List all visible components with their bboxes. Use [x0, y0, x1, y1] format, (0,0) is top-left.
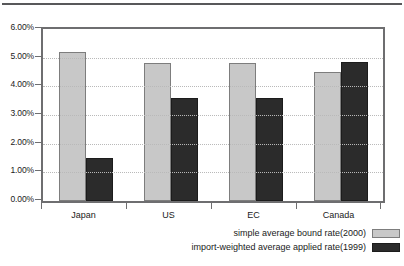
- gridline: [43, 115, 383, 116]
- bar-ec-series2: [256, 98, 283, 201]
- x-tick-mark: [211, 203, 212, 209]
- bar-japan-series2: [86, 158, 113, 201]
- x-tick-label-japan: Japan: [71, 210, 96, 220]
- bar-japan-series1: [59, 52, 86, 201]
- legend-label: import-weighted average applied rate(199…: [191, 242, 366, 252]
- x-tick-mark: [126, 203, 127, 209]
- y-tick-label: 4.00%: [10, 79, 34, 89]
- bar-us-series2: [171, 98, 198, 201]
- legend-item-1: simple average bound rate(2000): [233, 228, 400, 238]
- legend-item-2: import-weighted average applied rate(199…: [191, 242, 400, 252]
- y-axis: 0.00%1.00%2.00%3.00%4.00%5.00%6.00%: [0, 27, 34, 203]
- gridline: [43, 172, 383, 173]
- y-tick-label: 0.00%: [10, 194, 34, 204]
- chart-legend: simple average bound rate(2000)import-we…: [191, 228, 400, 252]
- x-tick-label-ec: EC: [247, 210, 260, 220]
- bar-us-series1: [144, 63, 171, 201]
- y-tick-label: 5.00%: [10, 51, 34, 61]
- y-tick-label: 3.00%: [10, 108, 34, 118]
- x-tick-label-canada: Canada: [323, 210, 355, 220]
- x-tick-mark: [41, 203, 42, 209]
- bar-canada-series2: [341, 62, 368, 201]
- gridline: [43, 144, 383, 145]
- y-tick-label: 6.00%: [10, 22, 34, 32]
- gridline: [43, 58, 383, 59]
- top-divider-rule: [2, 3, 402, 5]
- legend-swatch-light: [372, 229, 400, 238]
- bar-canada-series1: [314, 72, 341, 201]
- x-tick-mark: [296, 203, 297, 209]
- y-tick-label: 2.00%: [10, 137, 34, 147]
- gridline: [43, 86, 383, 87]
- x-tick-mark: [380, 203, 381, 209]
- x-tick-label-us: US: [162, 210, 175, 220]
- bar-ec-series1: [229, 63, 256, 201]
- legend-label: simple average bound rate(2000): [233, 228, 366, 238]
- x-axis: JapanUSECCanada: [41, 203, 385, 225]
- y-tick-label: 1.00%: [10, 165, 34, 175]
- plot-area: [41, 27, 385, 203]
- legend-swatch-dark: [372, 243, 400, 252]
